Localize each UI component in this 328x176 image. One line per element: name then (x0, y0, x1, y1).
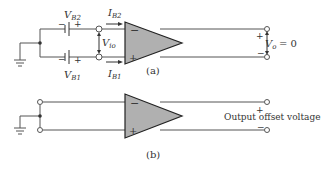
ib2-label: IB2 (107, 7, 122, 20)
output-minus: − (257, 122, 265, 132)
opamp-a-minus: − (130, 24, 139, 37)
opamp-b-plus: + (129, 125, 137, 136)
vio-label: Vio (102, 37, 116, 50)
opamp-b-minus: − (130, 97, 139, 110)
junction-dot-a (38, 41, 42, 45)
vb2-plus: + (74, 19, 82, 29)
vb1-plus: + (74, 55, 82, 65)
vo-plus: + (256, 31, 264, 41)
vo-equals-zero: = 0 (279, 38, 297, 49)
junction-dot-b (38, 114, 42, 118)
op-amp-offset-diagram: − + VB2 − + VB1 − + IB2 IB1 Vio + − Vo =… (0, 0, 328, 176)
vb2-minus: − (58, 19, 66, 29)
figure-a-label: (a) (146, 65, 160, 76)
opamp-a-plus: + (129, 52, 137, 63)
ib1-label: IB1 (107, 68, 122, 81)
ground-wire-a (20, 43, 40, 60)
vb1-label: VB1 (64, 69, 81, 82)
vo-minus: − (257, 48, 265, 58)
figure-b-label: (b) (146, 149, 160, 160)
output-offset-voltage-label: Output offset voltage (224, 112, 321, 122)
vb1-minus: − (58, 54, 66, 64)
